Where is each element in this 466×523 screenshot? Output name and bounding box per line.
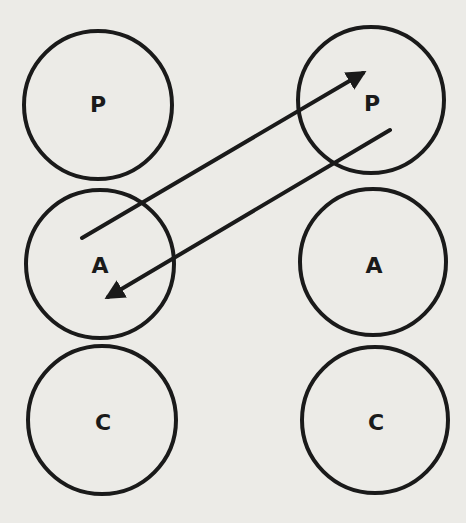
ego-state-diagram: P A C P A C	[0, 0, 466, 523]
right-adult-label: A	[365, 255, 382, 277]
right-child-label: C	[368, 412, 384, 434]
diagram-canvas	[0, 0, 466, 523]
right-parent-label: P	[364, 93, 380, 115]
left-adult-label: A	[91, 255, 108, 277]
left-child-label: C	[95, 412, 111, 434]
left-parent-label: P	[90, 94, 106, 116]
